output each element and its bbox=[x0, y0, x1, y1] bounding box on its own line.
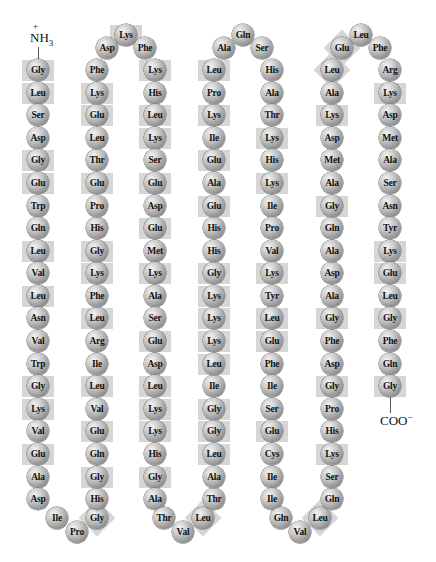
residue-val: Val bbox=[27, 262, 49, 284]
residue-asn: Asn bbox=[379, 195, 401, 217]
residue-asp: Asp bbox=[96, 37, 118, 59]
residue-lys: Lys bbox=[144, 420, 166, 442]
residue-gly: Gly bbox=[27, 149, 49, 171]
residue-gly: Gly bbox=[27, 59, 49, 81]
residue-gly: Gly bbox=[321, 195, 343, 217]
residue-val: Val bbox=[27, 420, 49, 442]
residue-lys: Lys bbox=[144, 262, 166, 284]
residue-glu: Glu bbox=[27, 443, 49, 465]
residue-gln: Gln bbox=[27, 217, 49, 239]
n-terminus-subscript: 3 bbox=[49, 38, 54, 48]
residue-lys: Lys bbox=[144, 59, 166, 81]
residue-tyr: Tyr bbox=[261, 285, 283, 307]
residue-thr: Thr bbox=[261, 104, 283, 126]
residue-leu: Leu bbox=[203, 59, 225, 81]
residue-gln: Gln bbox=[86, 443, 108, 465]
residue-his: His bbox=[144, 82, 166, 104]
residue-pro: Pro bbox=[203, 82, 225, 104]
residue-lys: Lys bbox=[379, 82, 401, 104]
residue-ala: Ala bbox=[203, 172, 225, 194]
residue-phe: Phe bbox=[261, 353, 283, 375]
residue-ala: Ala bbox=[321, 285, 343, 307]
residue-arg: Arg bbox=[379, 59, 401, 81]
residue-gly: Gly bbox=[86, 240, 108, 262]
residue-lys: Lys bbox=[261, 262, 283, 284]
residue-pro: Pro bbox=[66, 521, 88, 543]
residue-ala: Ala bbox=[203, 466, 225, 488]
residue-his: His bbox=[261, 149, 283, 171]
residue-gly: Gly bbox=[203, 420, 225, 442]
residue-lys: Lys bbox=[144, 127, 166, 149]
residue-leu: Leu bbox=[321, 59, 343, 81]
residue-ser: Ser bbox=[251, 37, 273, 59]
residue-asp: Asp bbox=[27, 127, 49, 149]
residue-his: His bbox=[86, 488, 108, 510]
residue-asp: Asp bbox=[144, 195, 166, 217]
residue-leu: Leu bbox=[27, 82, 49, 104]
residue-ile: Ile bbox=[261, 466, 283, 488]
residue-met: Met bbox=[144, 240, 166, 262]
residue-leu: Leu bbox=[86, 307, 108, 329]
residue-lys: Lys bbox=[115, 24, 137, 46]
residue-phe: Phe bbox=[369, 37, 391, 59]
n-terminus-label: NH3 + bbox=[30, 30, 53, 48]
residue-glu: Glu bbox=[144, 217, 166, 239]
residue-asp: Asp bbox=[144, 353, 166, 375]
c-terminus-charge: − bbox=[407, 412, 412, 422]
residue-his: His bbox=[144, 443, 166, 465]
residue-asp: Asp bbox=[379, 104, 401, 126]
residue-gly: Gly bbox=[144, 466, 166, 488]
residue-asp: Asp bbox=[321, 262, 343, 284]
residue-leu: Leu bbox=[192, 507, 214, 529]
residue-cys: Cys bbox=[261, 443, 283, 465]
residue-val: Val bbox=[172, 521, 194, 543]
residue-gly: Gly bbox=[379, 375, 401, 397]
residue-val: Val bbox=[289, 521, 311, 543]
residue-ile: Ile bbox=[261, 195, 283, 217]
residue-val: Val bbox=[261, 240, 283, 262]
residue-lys: Lys bbox=[321, 443, 343, 465]
residue-gln: Gln bbox=[321, 217, 343, 239]
n-terminus-charge: + bbox=[33, 21, 38, 31]
residue-lys: Lys bbox=[321, 104, 343, 126]
residue-lys: Lys bbox=[144, 398, 166, 420]
residue-leu: Leu bbox=[86, 375, 108, 397]
residue-gln: Gln bbox=[321, 488, 343, 510]
n-terminus-group: NH bbox=[30, 30, 49, 45]
residue-leu: Leu bbox=[203, 443, 225, 465]
polypeptide-chain-diagram: NH3 + GlyLeuSerAspGlyGluTrpGlnLeuValLeuA… bbox=[0, 0, 436, 562]
residue-val: Val bbox=[86, 398, 108, 420]
residue-phe: Phe bbox=[134, 37, 156, 59]
residue-lys: Lys bbox=[379, 240, 401, 262]
residue-his: His bbox=[203, 240, 225, 262]
residue-ala: Ala bbox=[261, 82, 283, 104]
residue-ala: Ala bbox=[144, 285, 166, 307]
residue-trp: Trp bbox=[27, 353, 49, 375]
residue-lys: Lys bbox=[203, 307, 225, 329]
residue-tyr: Tyr bbox=[379, 217, 401, 239]
residue-leu: Leu bbox=[203, 353, 225, 375]
residue-lys: Lys bbox=[261, 127, 283, 149]
residue-thr: Thr bbox=[203, 488, 225, 510]
residue-leu: Leu bbox=[27, 240, 49, 262]
residue-lys: Lys bbox=[86, 82, 108, 104]
residue-leu: Leu bbox=[261, 307, 283, 329]
residue-ile: Ile bbox=[203, 127, 225, 149]
residue-ile: Ile bbox=[46, 507, 68, 529]
residue-lys: Lys bbox=[261, 172, 283, 194]
c-terminus-label: COO− bbox=[380, 412, 413, 429]
residue-gln: Gln bbox=[232, 24, 254, 46]
residue-gly: Gly bbox=[86, 466, 108, 488]
residue-ser: Ser bbox=[379, 172, 401, 194]
residue-met: Met bbox=[379, 127, 401, 149]
residue-lys: Lys bbox=[203, 330, 225, 352]
residue-ala: Ala bbox=[321, 82, 343, 104]
residue-glu: Glu bbox=[86, 104, 108, 126]
residue-glu: Glu bbox=[203, 195, 225, 217]
residue-gly: Gly bbox=[321, 307, 343, 329]
residue-arg: Arg bbox=[86, 330, 108, 352]
residue-pro: Pro bbox=[261, 217, 283, 239]
residue-glu: Glu bbox=[144, 330, 166, 352]
residue-phe: Phe bbox=[86, 59, 108, 81]
residue-glu: Glu bbox=[27, 172, 49, 194]
